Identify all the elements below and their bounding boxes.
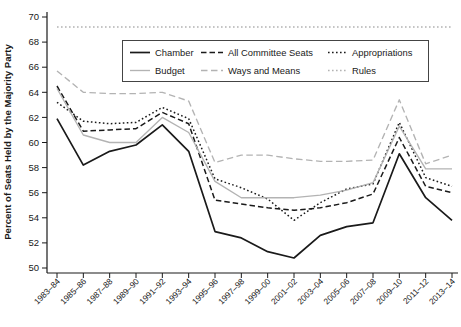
y-tick-label: 50 bbox=[28, 262, 39, 273]
x-tick-label: 1993–94 bbox=[163, 276, 193, 306]
y-tick-label: 62 bbox=[28, 112, 39, 123]
x-tick-label: 2011–12 bbox=[401, 276, 431, 306]
series-line-budget bbox=[57, 89, 452, 198]
x-tick-label: 1987–88 bbox=[84, 276, 114, 306]
legend-label-rules: Rules bbox=[352, 65, 376, 76]
y-tick-label: 54 bbox=[28, 212, 39, 223]
x-tick-label: 1997–98 bbox=[216, 276, 246, 306]
x-tick-label: 1995–96 bbox=[190, 276, 220, 306]
y-tick-label: 52 bbox=[28, 237, 39, 248]
x-tick-label: 1989–90 bbox=[111, 276, 141, 306]
y-tick-label: 60 bbox=[28, 137, 39, 148]
y-tick-label: 64 bbox=[28, 87, 39, 98]
y-tick-label: 66 bbox=[28, 61, 39, 72]
x-tick-label: 2007–08 bbox=[348, 276, 378, 306]
y-axis-title: Percent of Seats Held by the Majority Pa… bbox=[2, 44, 13, 240]
legend-label-all-committee-seats: All Committee Seats bbox=[228, 47, 313, 58]
y-tick-label: 56 bbox=[28, 187, 39, 198]
x-tick-label: 2013–14 bbox=[427, 276, 457, 306]
x-tick-label: 1985–86 bbox=[58, 276, 88, 306]
x-tick-label: 1991–92 bbox=[137, 276, 167, 306]
x-tick-label: 1999–00 bbox=[242, 276, 272, 306]
y-tick-label: 70 bbox=[28, 11, 39, 22]
legend-label-ways-and-means: Ways and Means bbox=[228, 65, 300, 76]
legend-label-chamber: Chamber bbox=[155, 47, 194, 58]
line-chart-figure: Percent of Seats Held by the Majority Pa… bbox=[0, 0, 461, 327]
x-tick-label: 2001–02 bbox=[269, 276, 299, 306]
x-tick-label: 2005–06 bbox=[321, 276, 351, 306]
x-tick-label: 2003–04 bbox=[295, 276, 325, 306]
legend-label-appropriations: Appropriations bbox=[352, 47, 413, 58]
series-line-all-committee-seats bbox=[57, 86, 452, 210]
y-tick-label: 68 bbox=[28, 36, 39, 47]
legend-label-budget: Budget bbox=[155, 65, 185, 76]
y-tick-label: 58 bbox=[28, 162, 39, 173]
x-tick-label: 2009–10 bbox=[374, 276, 404, 306]
plot-svg: Percent of Seats Held by the Majority Pa… bbox=[0, 0, 461, 327]
x-tick-label: 1983–84 bbox=[32, 276, 62, 306]
legend: ChamberAll Committee SeatsAppropriations… bbox=[123, 41, 429, 82]
series-line-appropriations bbox=[57, 102, 452, 220]
